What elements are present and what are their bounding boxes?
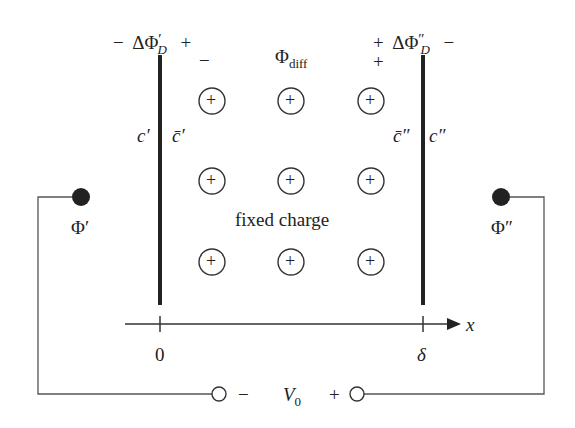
tick-label-zero: 0 [155,345,165,364]
left-electrode-label: Φ′ [71,218,89,237]
right-electrode-dot-icon [492,188,510,206]
tick-label-delta: δ [417,345,426,364]
right-inner-concentration: c̄″ [393,126,409,145]
left-electrode-dot-icon [72,188,90,206]
fixed-charge-plus: + [206,91,216,109]
left-donnan-potential-label: − ΔΦ′D + [113,33,191,52]
subscript-zero: 0 [295,394,302,409]
right-outer-concentration: c″ [429,126,445,145]
left-inner-minus: − [199,51,210,70]
left-inner-concentration: c̄′ [172,126,185,145]
plus-sign: + [373,32,384,53]
x-axis-label: x [466,315,474,334]
x-axis-arrow-icon [447,318,461,330]
fixed-charge-plus: + [285,91,295,109]
right-electrode-label: Φ″ [491,218,513,237]
fixed-charge-plus: + [365,252,375,270]
right-circuit-wire [364,197,544,394]
fixed-charge-label: fixed charge [233,210,331,229]
minus-sign: − [113,32,124,53]
delta-phi-symbol: ΔΦ [392,32,418,53]
fixed-charge-plus: + [285,171,295,189]
source-plus-sign: + [329,385,340,404]
fixed-charge-plus: + [365,171,375,189]
right-donnan-potential-label: + ΔΦ″D − [373,33,454,52]
fixed-charge-plus: + [285,252,295,270]
fixed-charge-plus: + [365,91,375,109]
source-voltage-label: V0 [283,385,301,404]
right-inner-plus: + [373,52,384,71]
left-outer-concentration: c′ [137,126,150,145]
source-terminal-plus-icon [350,387,364,401]
voltage-symbol: V [283,384,295,405]
delta-phi-symbol: ΔΦ [132,32,158,53]
fixed-charge-plus: + [206,171,216,189]
left-circuit-wire [38,197,212,394]
diffusion-potential-label: Φdiff [275,47,307,66]
plus-sign: + [180,32,191,53]
fixed-charge-plus: + [206,252,216,270]
source-minus-sign: − [238,385,249,404]
minus-sign: − [443,32,454,53]
subscript-d: D [158,42,167,57]
subscript-diff: diff [289,56,308,71]
source-terminal-minus-icon [212,387,226,401]
subscript-d: D [421,42,430,57]
phi-symbol: Φ [275,46,289,67]
